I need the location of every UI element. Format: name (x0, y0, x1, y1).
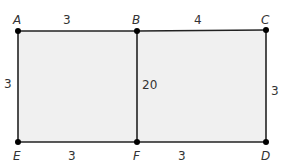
rectangle-diagram: A B C E F D 3 4 3 20 3 3 3 (0, 0, 286, 168)
vertex-A (15, 28, 21, 34)
vertex-B (134, 28, 140, 34)
measure-EF: 3 (68, 149, 76, 163)
vertex-D (263, 139, 269, 145)
edge-BC (137, 30, 266, 31)
vertex-C (263, 27, 269, 33)
label-A: A (12, 13, 21, 27)
measure-BC: 4 (194, 13, 202, 27)
label-F: F (133, 149, 141, 163)
label-C: C (261, 13, 270, 27)
measure-FD: 3 (178, 149, 186, 163)
measure-CD: 3 (271, 84, 279, 98)
measure-BF: 20 (142, 78, 157, 92)
vertex-E (15, 139, 21, 145)
label-B: B (132, 13, 140, 27)
vertex-F (134, 139, 140, 145)
measure-AB: 3 (63, 13, 71, 27)
label-E: E (13, 149, 21, 163)
measure-AE: 3 (4, 77, 12, 91)
left-region-ABFE (18, 31, 137, 142)
label-D: D (261, 149, 270, 163)
